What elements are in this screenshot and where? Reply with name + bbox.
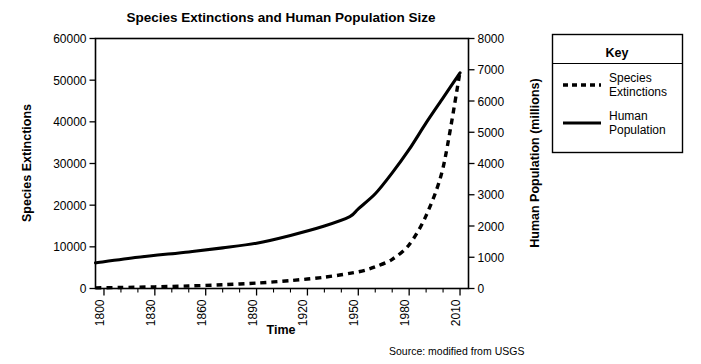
chart-svg: Species Extinctions and Human Population… [0,0,701,364]
legend-label-human-population-line2: Population [609,123,666,137]
y-axis-left-tick-label: 40000 [53,115,87,129]
y-axis-right-tick-label: 8000 [478,32,505,46]
y-axis-right-title: Human Population (millions) [528,78,542,247]
y-axis-right-tick-label: 3000 [478,188,505,202]
y-axis-right-ticks [469,39,475,289]
legend-title: Key [606,46,629,60]
y-axis-right-tick-label: 5000 [478,126,505,140]
legend-label-human-population-line1: Human [609,109,648,123]
plot-frame [96,39,469,289]
y-axis-left-tick-label: 50000 [53,74,87,88]
y-axis-right-tick-label: 6000 [478,95,505,109]
x-axis-tick-label: 1950 [347,299,361,326]
x-axis-tick-label: 1830 [144,299,158,326]
y-axis-right-tick-label: 4000 [478,157,505,171]
y-axis-left-ticks [90,39,96,289]
x-axis-title: Time [267,323,296,337]
x-axis-tick-label: 1920 [296,299,310,326]
y-axis-right-tick-labels: 010002000300040005000600070008000 [478,32,505,296]
y-axis-right-tick-label: 1000 [478,251,505,265]
x-axis-tick-label: 1860 [195,299,209,326]
legend-label-species-extinctions-line1: Species [609,71,652,85]
legend-label-species-extinctions-line2: Extinctions [609,85,667,99]
y-axis-left-title: Species Extinctions [20,104,34,222]
legend: Key Species Extinctions Human Population [553,35,683,153]
chart-title: Species Extinctions and Human Population… [126,10,436,25]
x-axis-tick-label: 1890 [246,299,260,326]
x-axis-tick-label: 1980 [398,299,412,326]
x-axis-major-ticks [104,289,460,296]
source-caption: Source: modified from USGS [389,345,524,357]
y-axis-right-tick-label: 2000 [478,220,505,234]
x-axis-tick-label: 2010 [449,299,463,326]
y-axis-right-tick-label: 7000 [478,63,505,77]
y-axis-left-tick-label: 20000 [53,199,87,213]
series-line-human-population [96,73,461,263]
y-axis-left-tick-label: 10000 [53,240,87,254]
chart-figure: Species Extinctions and Human Population… [0,0,701,364]
y-axis-left-tick-label: 60000 [53,32,87,46]
y-axis-left-tick-label: 0 [80,282,87,296]
y-axis-right-tick-label: 0 [478,282,485,296]
y-axis-left-tick-labels: 0100002000030000400005000060000 [53,32,87,296]
x-axis-tick-label: 1800 [93,299,107,326]
y-axis-left-tick-label: 30000 [53,157,87,171]
